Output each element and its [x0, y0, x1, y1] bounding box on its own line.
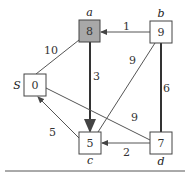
node-c-name: c — [87, 154, 93, 167]
edge-label-d-c: 2 — [123, 146, 130, 159]
node-a-value: 8 — [86, 25, 93, 38]
node-d-name: d — [157, 155, 164, 168]
node-a-name: a — [86, 6, 93, 19]
edge-label-b-a: 1 — [123, 20, 130, 33]
node-S: 0 S — [13, 74, 46, 96]
node-b-name: b — [157, 7, 164, 20]
edge-label-c-S: 5 — [49, 126, 56, 139]
node-S-value: 0 — [32, 79, 39, 92]
edge-label-b-d: 6 — [163, 82, 170, 95]
node-d: 7 d — [150, 132, 172, 168]
node-c: 5 c — [79, 132, 101, 167]
edge-label-a-c: 3 — [93, 70, 100, 83]
edge-label-S-d: 9 — [131, 111, 138, 124]
node-S-name: S — [13, 79, 21, 92]
graph-diagram: 1 10 3 9 6 9 5 2 8 a 9 b 0 S 5 c 7 d — [0, 0, 185, 173]
node-c-value: 5 — [87, 137, 94, 150]
node-b-value: 9 — [158, 26, 165, 39]
edge-c-S — [38, 97, 79, 138]
edge-label-a-S: 10 — [44, 44, 58, 57]
edge-label-b-c: 9 — [129, 54, 136, 67]
node-d-value: 7 — [158, 137, 165, 150]
node-a: 8 a — [79, 6, 100, 42]
node-b: 9 b — [150, 7, 172, 43]
